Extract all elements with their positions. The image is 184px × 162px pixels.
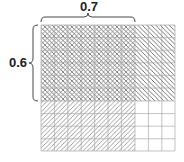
top-label: 0.7 <box>80 0 98 14</box>
area-model-diagram <box>0 0 184 162</box>
top-brace <box>41 13 135 22</box>
left-label: 0.6 <box>9 55 27 70</box>
left-brace <box>29 25 38 101</box>
